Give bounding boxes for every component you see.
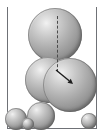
figure-canvas: [0, 0, 104, 136]
sphere-top: [28, 8, 82, 62]
sphere-bottom-tiny: [22, 118, 34, 130]
sphere-middle-right: [43, 58, 97, 112]
container-right-wall: [96, 7, 97, 129]
sphere-bottom-right: [81, 113, 97, 129]
